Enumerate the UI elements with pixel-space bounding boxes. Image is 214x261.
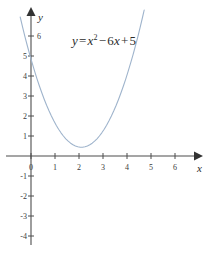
y-tick-label-1: 1 — [23, 132, 27, 141]
x-axis — [6, 152, 203, 161]
y-tick-label-neg3: -3 — [20, 212, 27, 221]
x-axis-label: x — [196, 162, 202, 174]
x-axis-arrow-icon — [194, 152, 203, 161]
x-tick-label-0: 0 — [29, 163, 33, 172]
y-tick-label-5: 5 — [23, 52, 27, 61]
y-tick-label-neg1: -1 — [20, 172, 27, 181]
equation-constant: 5 — [130, 33, 137, 48]
equation-linear-coefficient: 6 — [107, 33, 114, 48]
y-axis-arrow-icon — [27, 7, 36, 16]
x-tick-label-2: 2 — [77, 163, 81, 172]
y-tick-label-6: 6 — [37, 32, 41, 41]
equation-minus: − — [98, 33, 108, 48]
x-tick-label-3: 3 — [101, 163, 105, 172]
y-tick-label-neg4: -4 — [20, 232, 27, 241]
y-axis-label: y — [37, 11, 43, 23]
y-tick-label-4: 4 — [23, 72, 27, 81]
parabola-curve — [20, 10, 144, 147]
x-tick-labels: 0 1 2 3 4 5 6 — [29, 163, 177, 172]
graph-figure: 0 1 2 3 4 5 6 6 5 4 3 2 1 -1 -2 -3 -4 y … — [0, 0, 214, 261]
y-tick-label-2: 2 — [23, 112, 27, 121]
x-tick-label-4: 4 — [125, 163, 129, 172]
x-tick-label-6: 6 — [173, 163, 177, 172]
x-tick-label-5: 5 — [149, 163, 153, 172]
y-tick-label-neg2: -2 — [20, 192, 27, 201]
equation-equals: = — [78, 33, 88, 48]
y-axis — [27, 7, 36, 245]
x-tick-label-1: 1 — [53, 163, 57, 172]
equation-plus: + — [120, 33, 130, 48]
equation-annotation: y=x2−6x+5 — [72, 33, 136, 49]
y-tick-label-3: 3 — [23, 92, 27, 101]
